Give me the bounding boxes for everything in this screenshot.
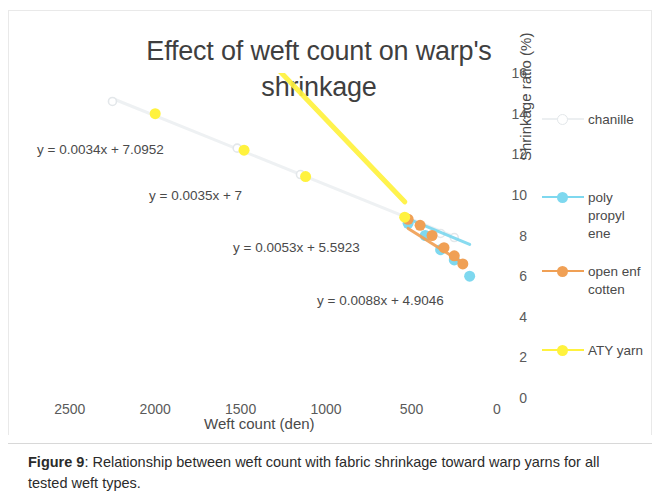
x-axis-tick-label: 500 bbox=[400, 401, 423, 417]
chart-container: Effect of weft count on warp's shrinkage… bbox=[8, 10, 652, 435]
caption-label: Figure 9 bbox=[28, 454, 84, 470]
y-axis-tick-label: 2 bbox=[519, 350, 527, 364]
legend-item: ATY yarn bbox=[542, 342, 650, 360]
legend-item: chanille bbox=[542, 111, 650, 129]
plot-svg bbox=[27, 73, 497, 398]
caption-text: Relationship between weft count with fab… bbox=[28, 454, 599, 491]
legend-swatch-icon bbox=[542, 189, 584, 205]
x-axis-tick-label: 2000 bbox=[140, 401, 171, 417]
y-axis-tick-label: 8 bbox=[519, 229, 527, 243]
legend-dot bbox=[557, 345, 568, 356]
y-axis-tick-label: 0 bbox=[519, 391, 527, 405]
series-open-enf-cotten bbox=[403, 214, 469, 270]
trendline-equation: y = 0.0035x + 7 bbox=[149, 188, 242, 203]
figure-page: Effect of weft count on warp's shrinkage… bbox=[0, 0, 660, 498]
legend-dot bbox=[557, 114, 568, 125]
legend-dot bbox=[557, 266, 568, 277]
legend-label: ATY yarn bbox=[588, 342, 650, 360]
series-trendline bbox=[155, 73, 405, 202]
data-point-marker bbox=[415, 220, 426, 231]
data-point-marker bbox=[108, 97, 116, 105]
legend-label: chanille bbox=[588, 111, 650, 129]
data-point-marker bbox=[239, 145, 250, 156]
plot-area bbox=[27, 73, 497, 398]
data-point-marker bbox=[399, 212, 410, 223]
y-axis-tick-label: 6 bbox=[519, 269, 527, 283]
y-axis-tick-label: 10 bbox=[511, 188, 527, 202]
y-axis-title: Shrinkage ratio (%) bbox=[517, 33, 534, 161]
legend-item: poly propyl ene bbox=[542, 189, 650, 243]
data-point-marker bbox=[300, 171, 311, 182]
legend-swatch-icon bbox=[542, 342, 584, 358]
series-poly-propyl-ene bbox=[403, 218, 476, 282]
legend-item: open enf cotten bbox=[542, 263, 650, 299]
legend-swatch-icon bbox=[542, 111, 584, 127]
caption-divider bbox=[8, 443, 652, 444]
data-point-marker bbox=[150, 108, 161, 119]
legend-swatch-icon bbox=[542, 263, 584, 279]
x-axis-tick-label: 0 bbox=[493, 401, 501, 417]
data-point-marker bbox=[439, 242, 450, 253]
figure-caption: Figure 9: Relationship between weft coun… bbox=[28, 452, 628, 494]
data-point-marker bbox=[449, 250, 460, 261]
trendline-equation: y = 0.0088x + 4.9046 bbox=[317, 293, 444, 308]
data-point-marker bbox=[427, 230, 438, 241]
data-point-marker bbox=[457, 258, 468, 269]
trendline-equation: y = 0.0034x + 7.0952 bbox=[37, 142, 164, 157]
y-axis-tick-label: 4 bbox=[519, 310, 527, 324]
x-axis-title: Weft count (den) bbox=[204, 415, 315, 432]
legend-label: poly propyl ene bbox=[588, 189, 650, 243]
x-axis-tick-label: 1000 bbox=[311, 401, 342, 417]
legend-label: open enf cotten bbox=[588, 263, 650, 299]
trendline-equation: y = 0.0053x + 5.5923 bbox=[233, 240, 360, 255]
legend-dot bbox=[557, 192, 568, 203]
data-point-marker bbox=[464, 271, 475, 282]
x-axis-tick-label: 2500 bbox=[54, 401, 85, 417]
